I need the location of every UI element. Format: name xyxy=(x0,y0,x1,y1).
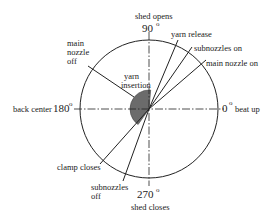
yarn-insertion-label-line2: insertion xyxy=(121,80,151,90)
angle-0-degree: o xyxy=(229,99,233,107)
clamp-closes-label: clamp closes xyxy=(57,162,101,172)
loom-timing-diagram: shed opens 90 o 0 o beat up 270 o shed c… xyxy=(0,0,270,223)
angle-180-label: 180 xyxy=(53,102,70,114)
shed-closes-label: shed closes xyxy=(131,202,169,212)
yarn-release-line xyxy=(149,40,178,109)
clamp-closes-line xyxy=(100,109,149,164)
subnozzles-on-label: subnozzles on xyxy=(194,43,243,53)
back-center-label: back center xyxy=(13,104,52,114)
angle-270-degree: o xyxy=(156,186,160,194)
beat-up-label: beat up xyxy=(235,104,260,114)
angle-90-degree: o xyxy=(156,20,160,28)
angle-0-label: 0 xyxy=(222,102,228,114)
yarn-release-label: yarn release xyxy=(171,29,212,39)
angle-270-label: 270 xyxy=(137,188,154,200)
shed-opens-label: shed opens xyxy=(135,11,173,21)
angle-90-label: 90 xyxy=(142,22,154,34)
subnozzles-off-label-line2: off xyxy=(91,191,101,201)
main-nozzle-off-label-line3: off xyxy=(67,56,77,66)
angle-180-degree: o xyxy=(69,100,73,108)
main-nozzle-on-label: main nozzle on xyxy=(206,58,259,68)
